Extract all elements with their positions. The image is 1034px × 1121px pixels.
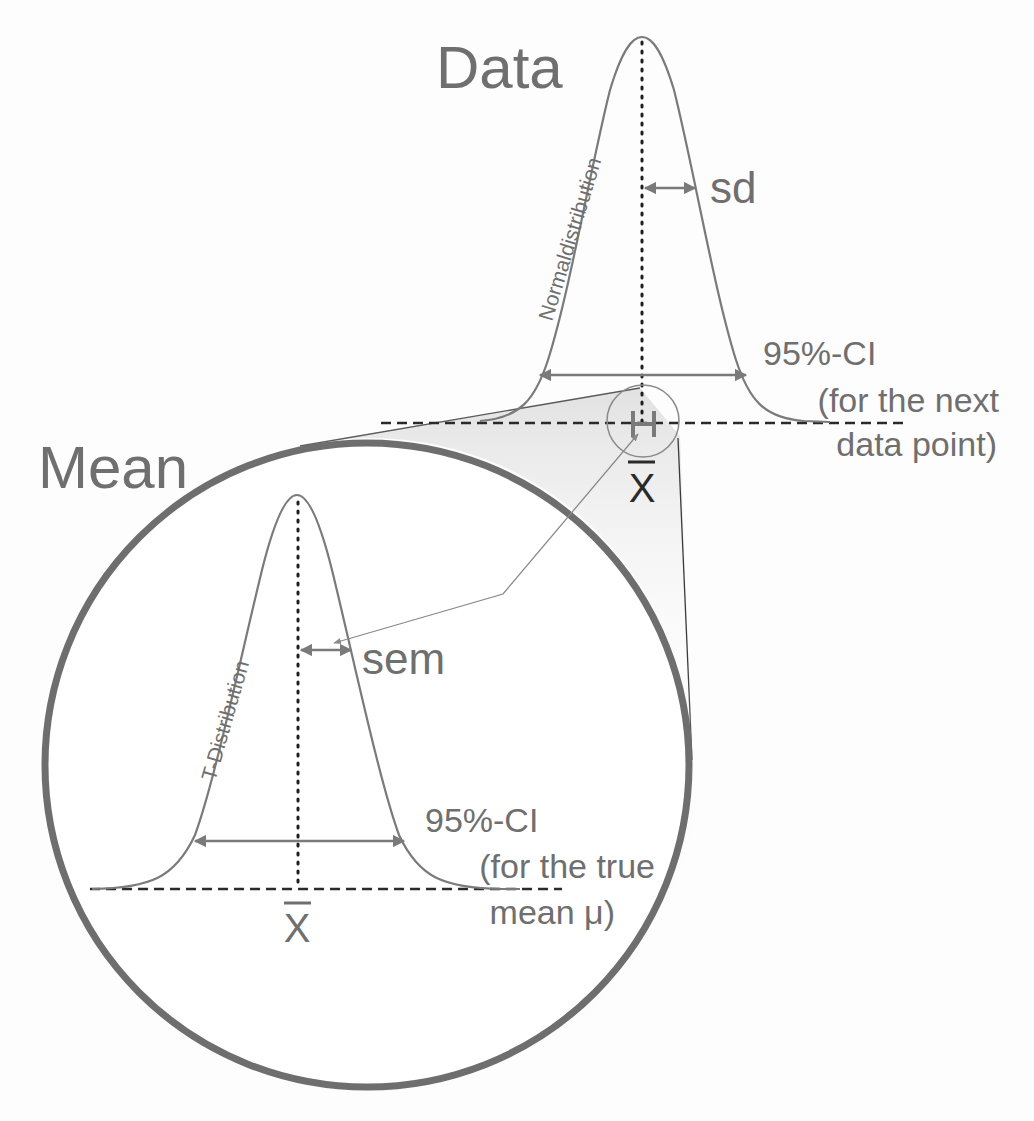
ci-data-line2: (for the next — [818, 381, 1000, 419]
ci-mean-line2: (for the true — [479, 847, 655, 885]
ci-mean-line1: 95%-CI — [425, 801, 538, 839]
ci-data-line1: 95%-CI — [763, 334, 876, 372]
xbar-symbol-bottom: X — [284, 906, 311, 950]
ci-mean-line3: mean μ) — [490, 893, 615, 931]
sd-label: sd — [710, 163, 756, 212]
sem-label: sem — [362, 634, 445, 683]
data-title: Data — [436, 34, 563, 101]
ci-data-line3: data point) — [836, 425, 997, 463]
diagram-canvas: Data Normaldistribution sd 95%-CI (for t… — [0, 0, 1034, 1121]
xbar-symbol-top: X — [629, 466, 656, 510]
magnifier-circle — [45, 443, 689, 1087]
normal-distribution-label: Normaldistribution — [534, 155, 605, 324]
mean-title: Mean — [38, 434, 188, 501]
